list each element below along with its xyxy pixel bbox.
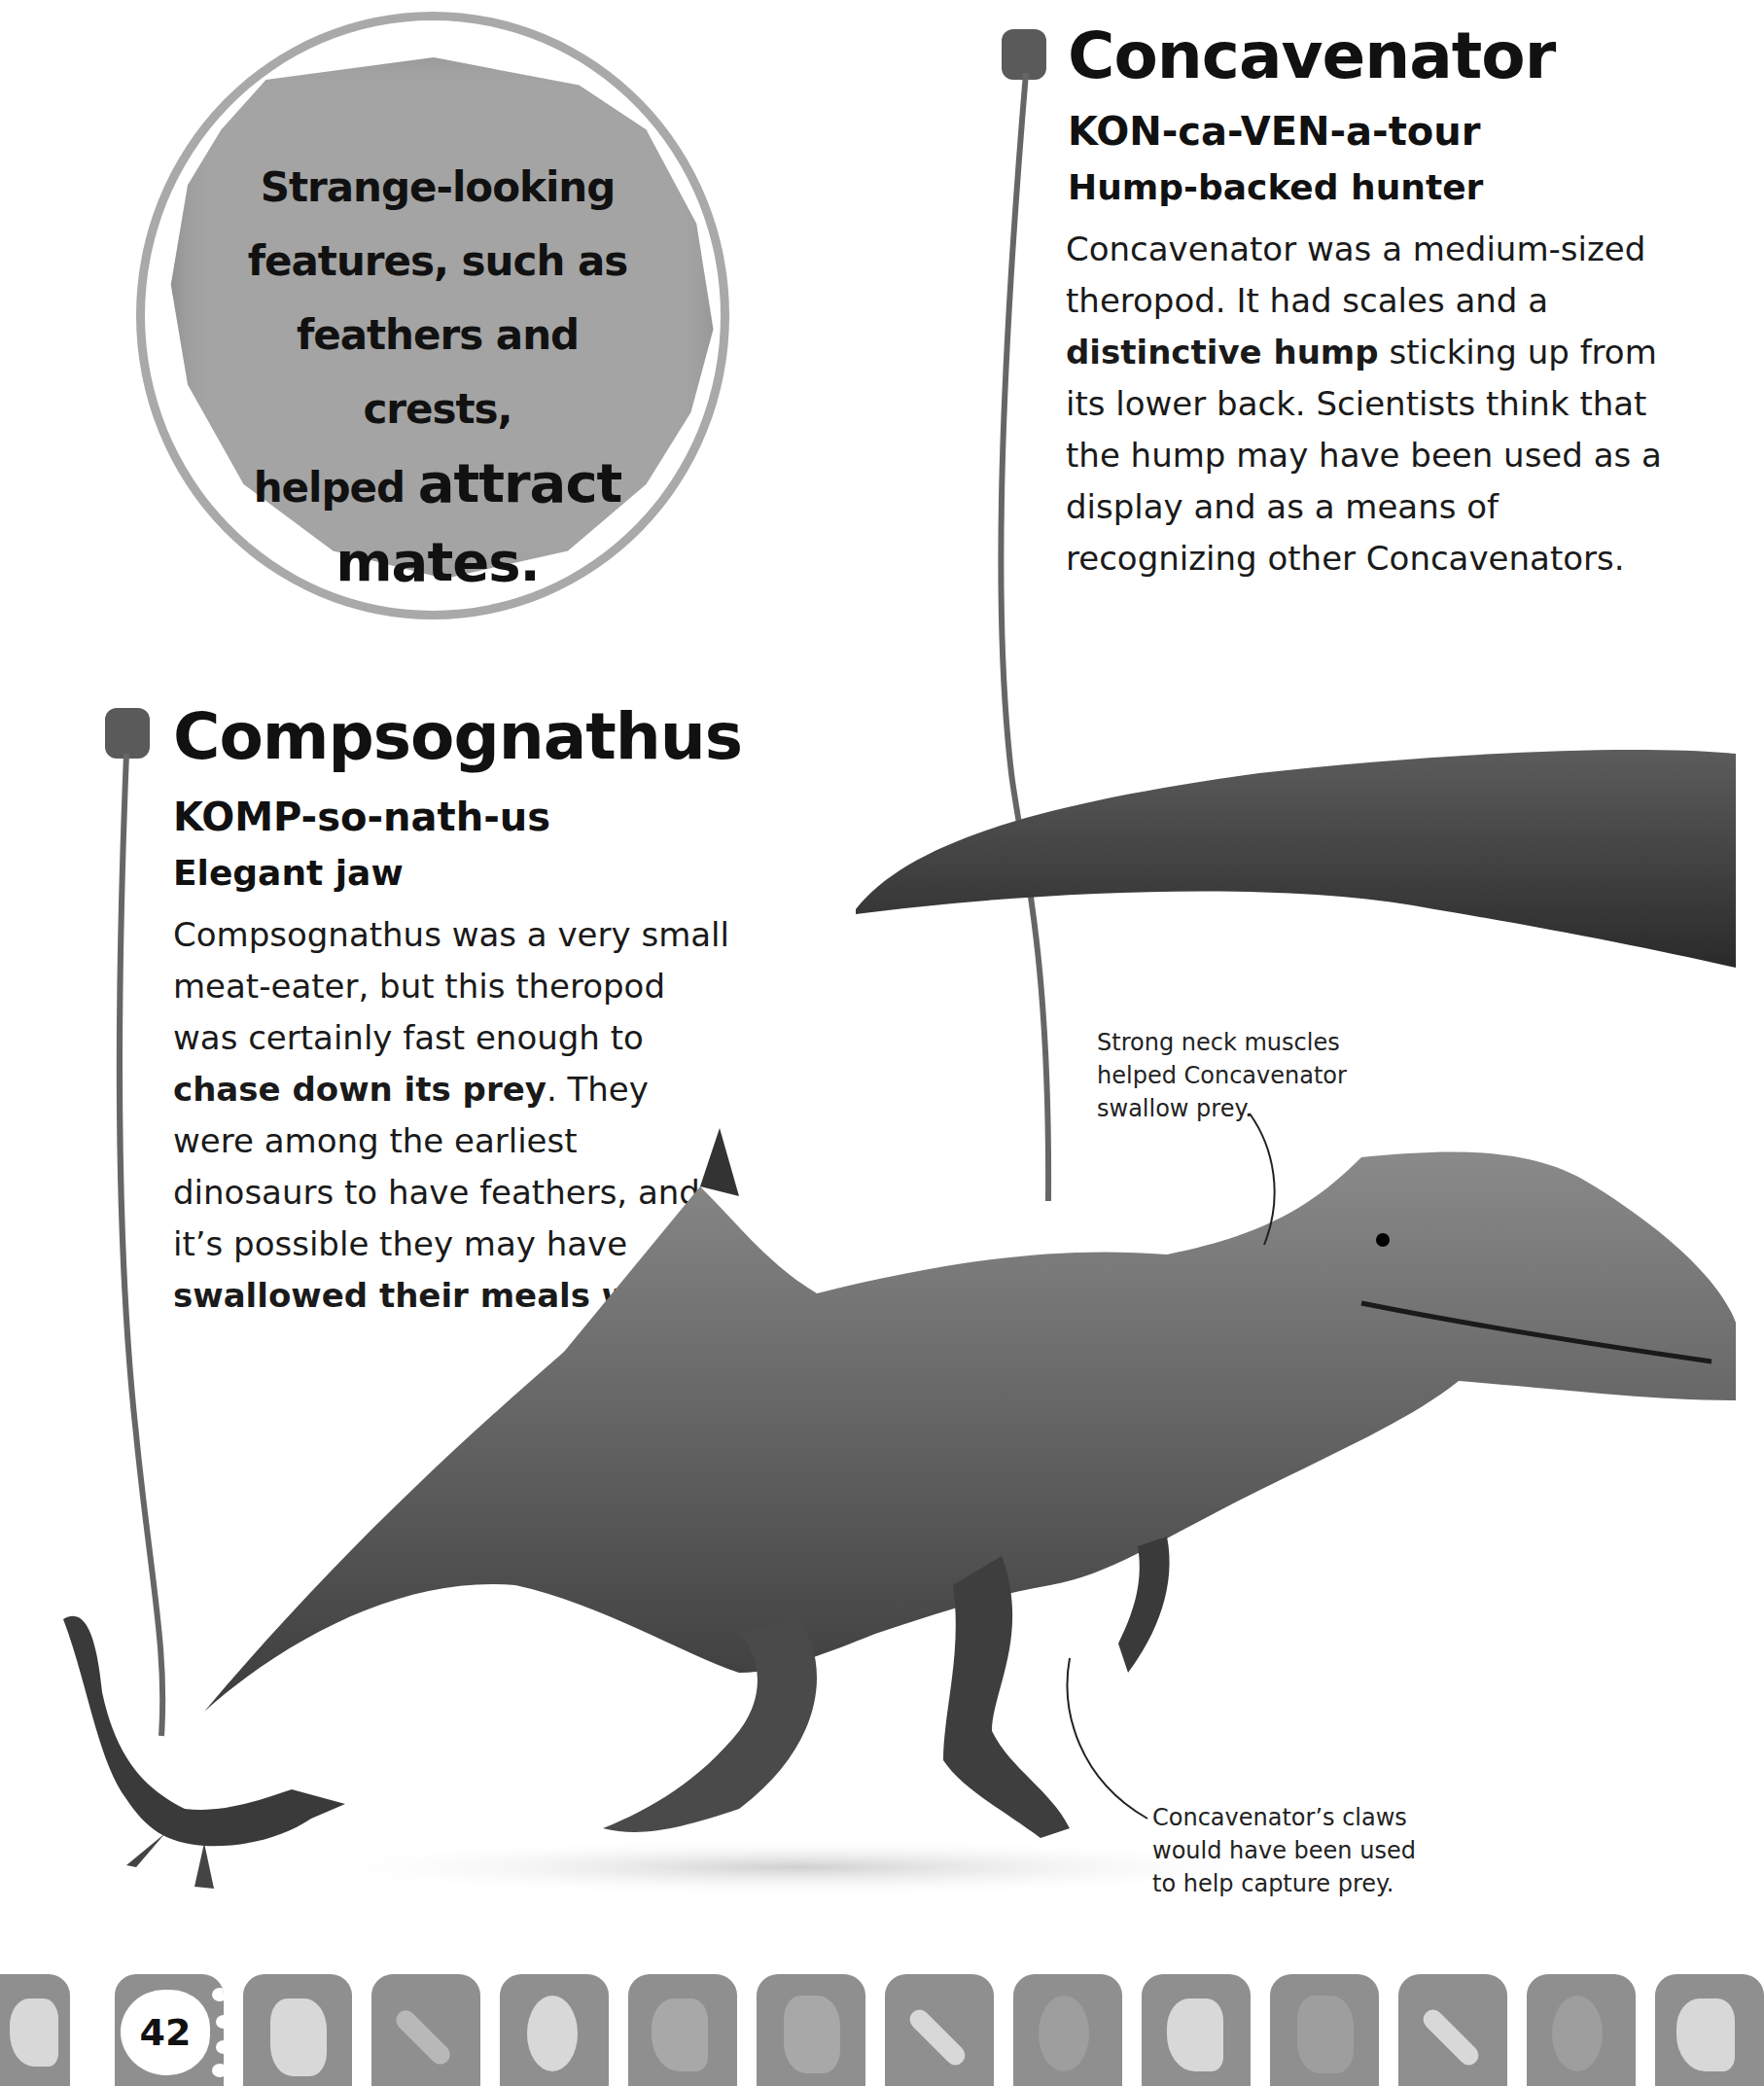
compsognathus-image xyxy=(58,1605,350,1896)
neck-muscles-caption: Strong neck muscles helped Concavenator … xyxy=(1097,1026,1369,1125)
footprint-tile-icon xyxy=(1655,1974,1764,2086)
footprint-tile-icon xyxy=(1398,1974,1507,2086)
dinosaur-tail-image xyxy=(851,734,1736,987)
claws-caption-pointer xyxy=(1060,1653,1157,1828)
callout-line: mates. xyxy=(224,525,652,599)
claws-caption: Concavenator’s claws would have been use… xyxy=(1152,1801,1444,1900)
footprint-tile-icon xyxy=(1270,1974,1379,2086)
callout-line: helped attract xyxy=(224,446,652,525)
compsognathus-marker-icon xyxy=(105,708,150,759)
concavenator-pronunciation: KON-ca-VEN-a-tour xyxy=(1068,112,1480,151)
callout-line: features, such as xyxy=(224,225,652,299)
footprint-tile-icon xyxy=(1013,1974,1122,2086)
highlight: chase down its prey xyxy=(173,1070,547,1109)
compsognathus-pronunciation: KOMP-so-nath-us xyxy=(173,797,550,836)
concavenator-image xyxy=(194,1128,1736,1906)
concavenator-title: Concavenator xyxy=(1068,24,1555,88)
callout-line: Strange-looking xyxy=(224,151,652,225)
callout-text: Strange-looking features, such as feathe… xyxy=(224,151,652,599)
footprint-tile-icon xyxy=(371,1974,480,2086)
footprint-tile-icon xyxy=(500,1974,609,2086)
highlight: distinctive hump xyxy=(1066,333,1379,371)
concavenator-description: Concavenator was a medium-sized theropod… xyxy=(1066,224,1688,584)
footprint-tile-icon xyxy=(1142,1974,1251,2086)
footprint-tile-icon xyxy=(885,1974,994,2086)
callout-line: feathers and crests, xyxy=(224,299,652,446)
neck-caption-pointer xyxy=(1245,1109,1303,1255)
footprint-tile-icon xyxy=(0,1974,70,2086)
compsognathus-meaning: Elegant jaw xyxy=(173,856,404,891)
concavenator-meaning: Hump-backed hunter xyxy=(1068,170,1483,205)
footer-footprint-strip: 42 xyxy=(0,1974,1736,2081)
page-number-tile: 42 xyxy=(115,1974,224,2086)
footprint-tile-icon xyxy=(757,1974,865,2086)
footprint-tile-icon xyxy=(628,1974,737,2086)
page-number: 42 xyxy=(121,1990,210,2075)
compsognathus-leader-line xyxy=(97,754,185,1746)
compsognathus-title: Compsognathus xyxy=(173,705,742,769)
footprint-tile-icon xyxy=(1527,1974,1636,2086)
footprint-tile-icon xyxy=(243,1974,352,2086)
callout-emphasis: attract xyxy=(418,451,622,514)
